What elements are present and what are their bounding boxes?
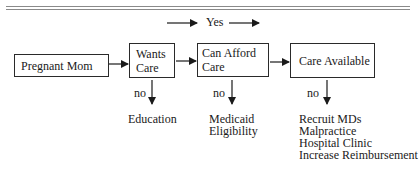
no-label-can-afford: no — [213, 87, 225, 100]
outcome-increase-reimbursement: Increase Reimbursement — [299, 149, 418, 162]
outcome-education: Education — [128, 113, 177, 126]
no-label-care-available: no — [307, 87, 319, 100]
node-label: Care Available — [299, 54, 370, 68]
node-care-available: Care Available — [290, 43, 375, 78]
node-pregnant-mom: Pregnant Mom — [14, 54, 109, 77]
node-can-afford-care: Can Afford Care — [197, 43, 269, 77]
node-label-line2: Care — [202, 60, 225, 74]
node-label-line2: Care — [136, 61, 159, 75]
node-label-line1: Wants — [136, 47, 166, 61]
node-label: Pregnant Mom — [21, 59, 93, 73]
node-label-line1: Can Afford — [202, 46, 256, 60]
no-label-wants-care: no — [134, 87, 146, 100]
outcome-eligibility: Eligibility — [209, 125, 258, 138]
node-wants-care: Wants Care — [129, 43, 175, 78]
yes-label: Yes — [206, 16, 223, 29]
